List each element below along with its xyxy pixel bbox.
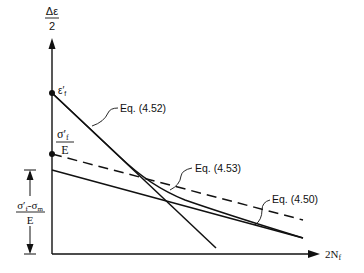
mean-stress-elastic-line: [52, 170, 303, 238]
eq450-label: Eq. (4.50): [272, 193, 318, 205]
dimension-arrow-up-icon: [27, 170, 34, 180]
mean-stress-numerator: σ′f-σm: [17, 199, 43, 213]
total-strain-curve: [52, 93, 303, 238]
elastic-strain-line-dashed: [52, 154, 303, 220]
y-axis-arrow-icon: [49, 38, 56, 49]
strain-life-diagram: Δε 2 2Nf ε′f σ′f E σ′f-σm E Eq. (4.52) E…: [0, 0, 364, 273]
eps-f-label: ε′f: [58, 85, 66, 97]
sigma-f-over-e-denominator: E: [61, 143, 68, 157]
y-axis-label-denominator: 2: [49, 20, 55, 32]
eps-f-intercept-dot: [49, 90, 55, 96]
x-axis-label: 2Nf: [325, 248, 341, 262]
eq453-label: Eq. (4.53): [195, 162, 241, 174]
dimension-arrow-down-icon: [27, 244, 34, 254]
y-axis-label-numerator: Δε: [46, 5, 58, 17]
sigma-f-intercept-dot: [49, 151, 55, 157]
eq453-leader: [170, 168, 192, 190]
eq452-leader: [92, 108, 118, 126]
x-axis-arrow-icon: [308, 250, 320, 258]
eq450-leader: [255, 200, 270, 225]
eq452-label: Eq. (4.52): [120, 102, 166, 114]
mean-stress-denominator: E: [27, 214, 34, 226]
sigma-f-over-e-numerator: σ′f: [57, 127, 69, 142]
